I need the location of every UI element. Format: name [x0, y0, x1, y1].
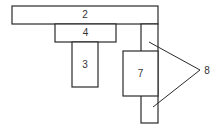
part-7-label: 7: [138, 68, 144, 79]
callout-8-leader-lower: [153, 70, 200, 107]
part-2-label: 2: [82, 9, 88, 20]
assembly-diagram: 2 4 3 7 8: [0, 0, 220, 132]
part-3-label: 3: [82, 59, 88, 70]
callout-8-label: 8: [204, 65, 210, 76]
part-4-label: 4: [83, 27, 89, 38]
